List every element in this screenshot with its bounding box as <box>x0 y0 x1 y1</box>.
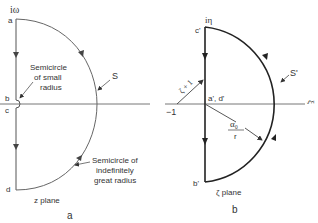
arrow-down-icon <box>202 53 208 60</box>
point-c-prime: c' <box>195 26 201 35</box>
note-small-3: radius <box>40 83 62 92</box>
caption-a: a <box>67 210 73 221</box>
leader-s-prime <box>281 75 289 82</box>
contour-label-s: S <box>112 71 118 81</box>
vector-label: ζ + 1 <box>177 78 195 96</box>
panel-b: iη c' b' a', d' −1 ζ + 1 α₀ r S' ξ ζ pla… <box>165 15 316 215</box>
point-ad-prime: a', d' <box>208 94 225 103</box>
point-d: d <box>6 185 10 194</box>
arrow-up-icon <box>78 50 84 57</box>
note-small-2: of small <box>34 73 62 82</box>
arrow-up-icon <box>262 53 268 60</box>
axis-label-iomega: iω <box>10 4 20 15</box>
arrow-up-icon <box>271 134 276 141</box>
arrow-down-icon <box>202 138 208 145</box>
conformal-map-diagram: iω a b c d S Semicircle of small radius … <box>0 0 318 223</box>
axis-label-ieta: iη <box>205 15 213 25</box>
contour-label-s-prime: S' <box>290 68 298 78</box>
arrow-down-icon <box>13 144 19 150</box>
plane-label-zeta: ζ plane <box>216 188 242 197</box>
note-great-2: indefinitely <box>96 166 134 175</box>
radius-arrow <box>245 128 262 140</box>
note-great-1: Semicircle of <box>92 156 139 165</box>
point-b: b <box>5 94 10 103</box>
panel-a: iω a b c d S Semicircle of small radius … <box>0 4 150 221</box>
point-c: c <box>5 106 9 115</box>
axis-label-xi: ξ <box>306 100 316 104</box>
leader-s <box>98 80 110 90</box>
radius-label-den: r <box>234 132 237 141</box>
point-a: a <box>8 16 13 25</box>
radius-label-num: α₀ <box>230 119 238 129</box>
label-minus-one: −1 <box>166 107 176 117</box>
arrow-down-icon <box>13 52 19 58</box>
point-b-prime: b' <box>193 179 199 188</box>
caption-b: b <box>232 204 238 215</box>
note-great-3: great radius <box>94 176 136 185</box>
leader-small-semicircle <box>20 82 33 98</box>
note-small-1: Semicircle <box>30 63 67 72</box>
plane-label-z: z plane <box>34 196 60 205</box>
